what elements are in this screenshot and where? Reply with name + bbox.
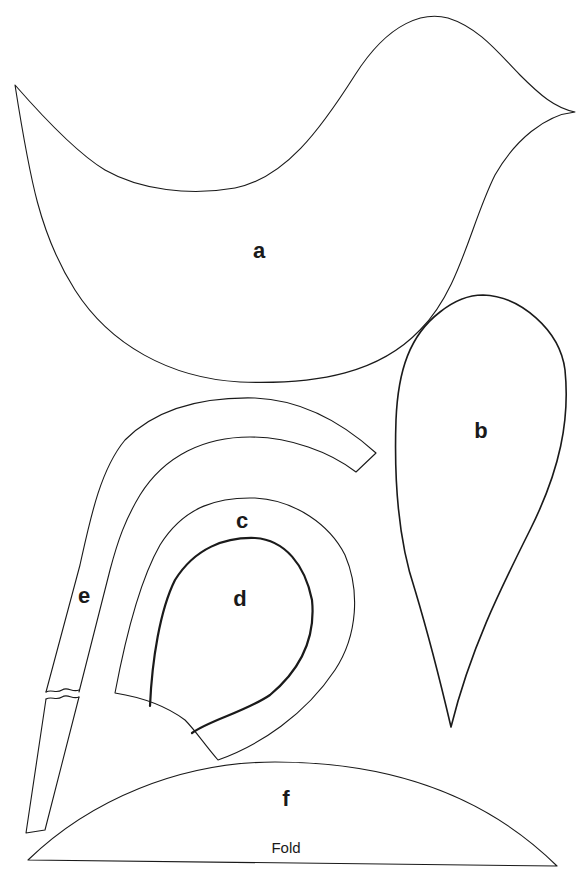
label-f: f xyxy=(282,786,290,811)
piece-c-band xyxy=(115,498,355,760)
piece-f-arch: f Fold xyxy=(28,762,557,866)
strip-e-lower-outline xyxy=(26,697,79,833)
piece-b-teardrop: b xyxy=(396,295,567,727)
pattern-sheet: a b e d c f Fold xyxy=(0,0,583,878)
piece-a-bird-body: a xyxy=(15,16,575,382)
label-d: d xyxy=(233,586,246,611)
label-c: c xyxy=(236,508,248,533)
teardrop-d-outline xyxy=(150,538,313,733)
band-c-outline xyxy=(115,498,355,760)
strip-e-upper-outline xyxy=(46,398,376,692)
teardrop-b-outline xyxy=(396,295,567,727)
piece-e-strip: e xyxy=(26,398,376,833)
label-b: b xyxy=(474,418,487,443)
piece-d-teardrop: d c xyxy=(150,508,313,733)
label-e: e xyxy=(78,583,90,608)
fold-label: Fold xyxy=(271,839,300,856)
strip-e-break-mark xyxy=(46,689,79,699)
label-a: a xyxy=(253,238,266,263)
bird-outline xyxy=(15,16,575,382)
